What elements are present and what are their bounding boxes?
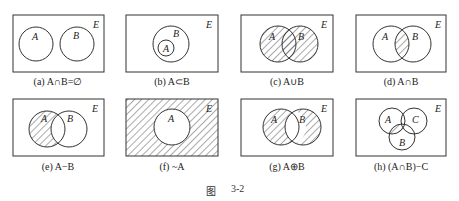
caption-h: (h) (A∩B)−C: [374, 161, 428, 172]
figure-caption-number: 3-2: [231, 183, 244, 194]
svg-text:B: B: [399, 137, 405, 148]
caption-b: (b) A⊂B: [154, 76, 190, 87]
svg-text:B: B: [299, 114, 305, 125]
caption-d: (d) A∩B: [384, 76, 419, 87]
svg-text:B: B: [298, 31, 304, 42]
svg-text:A: A: [381, 31, 389, 42]
svg-text:E: E: [320, 103, 327, 114]
panel-a: A B E: [13, 15, 104, 72]
caption-f: (f) ~A: [159, 161, 184, 172]
svg-text:A: A: [40, 113, 48, 124]
svg-text:A: A: [167, 113, 175, 124]
panel-f: A E: [126, 99, 218, 156]
svg-text:E: E: [91, 103, 98, 114]
svg-text:C: C: [412, 114, 419, 125]
panel-g: A B E: [241, 99, 333, 156]
panel-d: A B E: [356, 15, 446, 72]
svg-text:E: E: [434, 103, 441, 114]
svg-text:B: B: [73, 30, 79, 41]
panel-e: A B E: [13, 99, 104, 156]
figure-caption-prefix: 图: [206, 183, 216, 198]
svg-text:E: E: [205, 19, 212, 30]
panel-c: A B E: [241, 15, 333, 72]
svg-text:B: B: [67, 113, 73, 124]
svg-text:A: A: [162, 43, 170, 54]
panel-h: A C B E: [356, 99, 446, 156]
panel-b: B A E: [126, 15, 218, 72]
svg-text:E: E: [320, 19, 327, 30]
svg-text:E: E: [434, 19, 441, 30]
svg-text:E: E: [92, 19, 99, 30]
svg-text:A: A: [268, 31, 276, 42]
caption-c: (c) A∪B: [270, 76, 304, 87]
caption-g: (g) A⊕B: [269, 161, 305, 172]
svg-text:B: B: [412, 31, 418, 42]
svg-text:B: B: [173, 28, 179, 39]
caption-e: (e) A−B: [42, 161, 75, 172]
svg-text:A: A: [270, 114, 278, 125]
svg-text:A: A: [31, 31, 39, 42]
caption-a: (a) A∩B=∅: [34, 76, 83, 87]
svg-text:A: A: [384, 114, 392, 125]
svg-text:E: E: [205, 103, 212, 114]
